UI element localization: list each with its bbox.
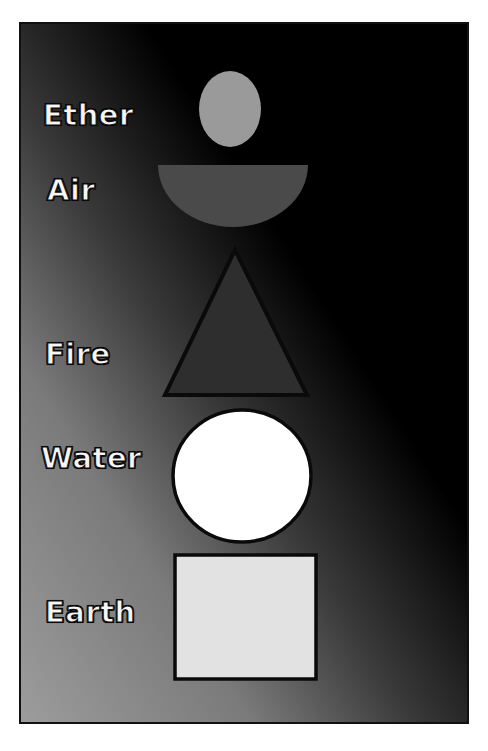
fire-label: Fire [45,340,111,369]
ether-label: Ether [43,101,134,130]
air-half-circle-shape [158,165,308,227]
earth-label: Earth [45,598,136,627]
water-circle-shape [173,410,311,542]
diagram-frame: Ether Air Fire Water Earth [19,22,469,724]
air-label: Air [47,176,95,205]
water-label: Water [41,444,142,473]
ether-ellipse-shape [199,71,261,147]
earth-square-shape [175,555,316,679]
fire-triangle-shape [165,250,307,395]
